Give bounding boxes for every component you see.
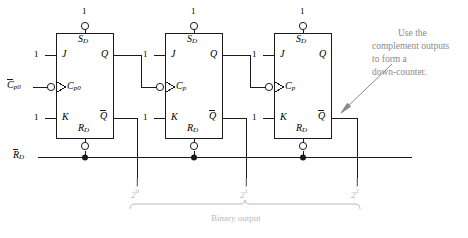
- q-label-1: Q: [210, 49, 217, 59]
- reset-label-0: RD: [78, 123, 89, 134]
- clock-triangle-1: [166, 82, 175, 93]
- q-label-2: Q: [319, 49, 326, 59]
- k-pin-value-2: 1: [252, 113, 257, 122]
- set-label-2: SD: [296, 34, 306, 45]
- circuit-diagram: 1 SD 1 J Cp0 1 K RD Q Q 1 SD 1 J Cp 1 K …: [0, 0, 468, 238]
- qbar-bus-wire-0: [114, 119, 138, 187]
- clock-label-0: Cp0: [67, 81, 81, 92]
- q-to-next-clock-wire-1: [223, 56, 266, 88]
- binary-output-brace: [130, 200, 360, 209]
- bus-bit-2-label: 22: [351, 187, 359, 200]
- k-label-0: K: [62, 112, 69, 122]
- j-label-2: J: [280, 49, 284, 59]
- bus-bit-1-label: 21: [240, 187, 248, 200]
- set-pin-value-2: 1: [300, 7, 305, 16]
- set-bubble-1: [190, 22, 197, 29]
- qbar-bus-wire-1: [223, 119, 247, 187]
- annotation-line-2: complement outputs: [372, 41, 449, 53]
- bus-bit-0-label: 20: [131, 187, 139, 200]
- k-pin-value-0: 1: [34, 113, 39, 122]
- q-label-0: Q: [101, 49, 108, 59]
- reset-label-2: RD: [296, 123, 307, 134]
- j-label-0: J: [62, 49, 66, 59]
- clock-label-1: Cp: [176, 81, 186, 92]
- clock-bubble-2: [265, 83, 272, 90]
- set-label-1: SD: [187, 34, 197, 45]
- junction-dot-0: [82, 155, 88, 161]
- set-label-0: SD: [78, 34, 88, 45]
- k-pin-value-1: 1: [143, 113, 148, 122]
- set-pin-value-1: 1: [191, 7, 196, 16]
- reset-input-label: RD: [13, 150, 24, 161]
- binary-output-caption: Binary output: [211, 213, 261, 223]
- junction-dot-1: [191, 155, 197, 161]
- clock-bubble-0: [47, 83, 54, 90]
- clock-triangle-2: [275, 82, 284, 93]
- k-label-1: K: [171, 112, 178, 122]
- qbar-label-0: Q: [100, 111, 107, 121]
- clock-label-2: Cp: [285, 81, 295, 92]
- annotation-line-3: to form a: [372, 54, 407, 66]
- set-pin-value-0: 1: [82, 7, 87, 16]
- clock-input-label: Cp0: [7, 80, 21, 91]
- junction-dot-2: [300, 155, 306, 161]
- reset-bubble-0: [81, 142, 88, 149]
- set-bubble-0: [81, 22, 88, 29]
- annotation-line-1: Use the: [398, 28, 427, 40]
- qbar-label-2: Q: [318, 111, 325, 121]
- annotation-arrow-head: [341, 103, 351, 113]
- q-to-next-clock-wire-0: [114, 56, 157, 88]
- j-pin-value-0: 1: [34, 50, 39, 59]
- qbar-label-1: Q: [209, 111, 216, 121]
- j-pin-value-1: 1: [143, 50, 148, 59]
- clock-bubble-1: [156, 83, 163, 90]
- qbar-bus-wire-2: [332, 119, 358, 187]
- annotation-line-4: down-counter.: [372, 67, 427, 79]
- reset-label-1: RD: [187, 123, 198, 134]
- set-bubble-2: [299, 22, 306, 29]
- clock-triangle-0: [57, 82, 66, 93]
- reset-bubble-2: [299, 142, 306, 149]
- k-label-2: K: [280, 112, 287, 122]
- reset-bubble-1: [190, 142, 197, 149]
- j-pin-value-2: 1: [252, 50, 257, 59]
- j-label-1: J: [171, 49, 175, 59]
